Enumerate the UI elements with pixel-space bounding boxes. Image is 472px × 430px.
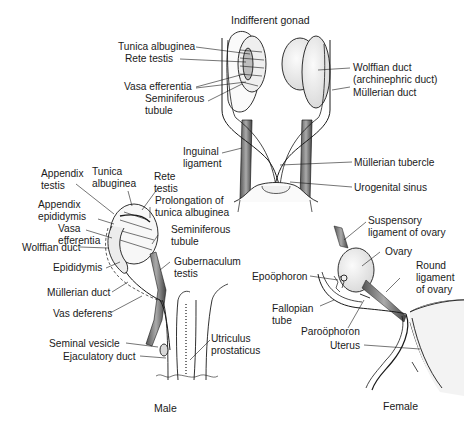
label-rete-testis-male-2: testis: [154, 183, 178, 195]
label-tunica-albuginea: Tunica albuginea: [118, 41, 195, 53]
female-title: Female: [383, 401, 418, 413]
label-rete-testis-male-1: Rete: [154, 171, 176, 183]
label-wolffian-duct-male: Wolffian duct: [22, 242, 81, 254]
label-epididymis: Epididymis: [53, 262, 102, 274]
male-title: Male: [154, 403, 177, 415]
label-prolongation-2: tunica albuginea: [155, 207, 229, 219]
label-fallopian-1: Fallopian: [272, 303, 313, 315]
label-appendix-testis-2: testis: [41, 180, 65, 192]
indifferent-gonad-title: Indifferent gonad: [231, 15, 310, 27]
label-epoophoron: Epoöphoron: [252, 271, 308, 283]
label-seminal-vesicle: Seminal vesicle: [49, 338, 120, 350]
label-mullerian-duct-indifferent: Müllerian duct: [353, 87, 416, 99]
label-appendix-epididymis-2: epididymis: [38, 211, 86, 223]
label-gubernaculum-1: Gubernaculum: [174, 256, 241, 268]
label-suspensory-1: Suspensory: [368, 215, 422, 227]
label-seminiferous-male-2: tubule: [171, 236, 199, 248]
label-inguinal-ligament-1: Inguinal: [183, 146, 219, 158]
label-archinephric-duct: (archinephric duct): [353, 74, 437, 86]
label-round-ligament-1: Round: [416, 260, 446, 272]
label-utriculus-1: Utriculus: [211, 333, 251, 345]
label-vasa-efferentia: Vasa efferentia: [124, 81, 192, 93]
label-suspensory-2: ligament of ovary: [368, 227, 446, 239]
label-vas-deferens: Vas deferens: [53, 308, 112, 320]
label-seminiferous-male-1: Seminiferous: [171, 224, 230, 236]
label-paroophoron: Paroöphoron: [301, 326, 360, 338]
label-prolongation-1: Prolongation of: [155, 195, 224, 207]
label-rete-testis: Rete testis: [125, 53, 173, 65]
label-wolffian-duct: Wolffian duct: [353, 62, 412, 74]
indifferent-gonad-drawing: [222, 31, 330, 212]
label-appendix-testis-1: Appendix: [41, 168, 83, 180]
label-mullerian-tubercle: Müllerian tubercle: [354, 157, 434, 169]
label-seminiferous-tubule-2: tubule: [145, 105, 173, 117]
label-round-ligament-2: ligament: [416, 272, 455, 284]
label-appendix-epididymis-1: Appendix: [38, 199, 80, 211]
label-seminiferous-tubule-1: Seminiferous: [145, 93, 204, 105]
label-mullerian-duct-male: Müllerian duct: [47, 287, 110, 299]
label-tunica-albuginea-male-2: albuginea: [92, 178, 136, 190]
label-urogenital-sinus: Urogenital sinus: [354, 182, 427, 194]
label-tunica-albuginea-male-1: Tunica: [92, 166, 122, 178]
label-round-ligament-3: of ovary: [416, 284, 452, 296]
label-vasa-efferentia-male-1: Vasa: [58, 223, 80, 235]
label-inguinal-ligament-2: ligament: [183, 158, 222, 170]
label-ovary: Ovary: [385, 246, 412, 258]
label-ejaculatory-duct: Ejaculatory duct: [63, 351, 135, 363]
label-utriculus-2: prostaticus: [211, 345, 260, 357]
label-uterus: Uterus: [330, 340, 360, 352]
label-gubernaculum-2: testis: [174, 268, 198, 280]
label-fallopian-2: tube: [272, 315, 292, 327]
